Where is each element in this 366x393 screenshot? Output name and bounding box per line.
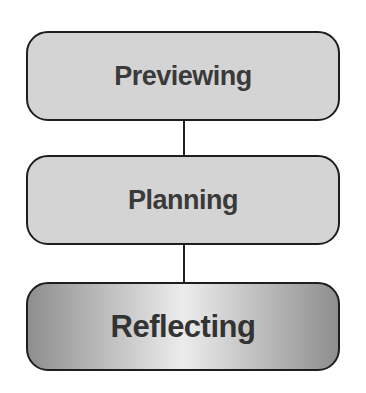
step-label: Planning	[128, 185, 238, 216]
connector-line	[183, 245, 185, 282]
step-reflecting: Reflecting	[26, 282, 340, 371]
step-label: Reflecting	[111, 309, 256, 345]
cropped-top-text	[150, 0, 366, 4]
connector-line	[183, 121, 185, 155]
step-previewing: Previewing	[26, 31, 340, 121]
step-planning: Planning	[26, 155, 340, 245]
step-label: Previewing	[114, 61, 252, 92]
